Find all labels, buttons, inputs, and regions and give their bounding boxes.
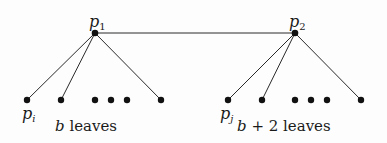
ellipsis-dot (324, 97, 330, 103)
label-p2: p2 (289, 12, 306, 32)
edge-p2-leaf2 (262, 33, 295, 100)
label-p1: p1 (89, 12, 106, 32)
ellipsis-dot (92, 97, 98, 103)
edge-p2-leaflast (295, 33, 361, 100)
ellipsis-dot (292, 97, 298, 103)
diagram-svg: p1 p2 pi b leaves pj b + 2 leaves (0, 0, 387, 143)
tree-diagram: p1 p2 pi b leaves pj b + 2 leaves (0, 0, 387, 143)
edge-p1-leaflast (95, 33, 161, 100)
label-pj: pj (220, 104, 233, 124)
leaf-right-2 (259, 97, 265, 103)
edge-p1-pi (27, 33, 95, 100)
leaf-pi (24, 97, 30, 103)
ellipsis-dot (108, 97, 114, 103)
caption-left: b leaves (55, 117, 117, 135)
edge-p2-pj (228, 33, 295, 100)
label-pi: pi (22, 104, 35, 124)
leaf-right-last (358, 97, 364, 103)
leaf-left-last (158, 97, 164, 103)
caption-right: b + 2 leaves (237, 117, 331, 135)
edge-p1-leaf2 (61, 33, 95, 100)
leaf-pj (225, 97, 231, 103)
ellipsis-dot (308, 97, 314, 103)
ellipsis-dot (124, 97, 130, 103)
leaf-left-2 (58, 97, 64, 103)
